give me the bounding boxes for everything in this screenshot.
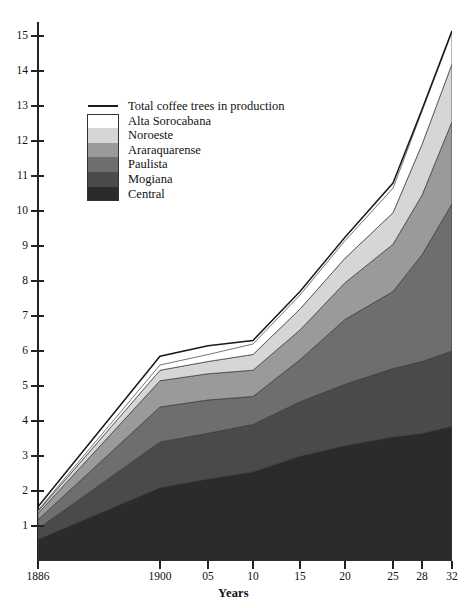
legend-label: Noroeste <box>120 128 173 143</box>
legend-item-central: Central <box>86 187 284 202</box>
y-tick-label-8: 8 <box>4 275 28 287</box>
legend-item-araraquarense: Araraquarense <box>86 143 284 158</box>
y-tick-10 <box>31 210 44 211</box>
y-tick-label-13: 13 <box>4 100 28 112</box>
legend-swatch-key <box>86 187 120 202</box>
y-axis-labels: 123456789101112131415 <box>0 0 28 608</box>
legend-swatch-glyph <box>87 114 119 129</box>
legend-swatch-glyph <box>87 187 119 202</box>
legend-label: Araraquarense <box>120 143 201 158</box>
legend-swatch-key <box>86 172 120 187</box>
x-tick-05 <box>207 561 208 569</box>
x-tick-label-32: 32 <box>446 570 458 582</box>
x-tick-25 <box>392 561 393 569</box>
legend-swatch-glyph <box>87 172 119 187</box>
x-tick-label-1900: 1900 <box>149 570 172 582</box>
legend-swatch-glyph <box>87 128 119 143</box>
legend-item-total-coffee-trees-in-production: Total coffee trees in production <box>86 99 284 114</box>
x-tick-1900 <box>159 561 160 569</box>
y-tick-8 <box>31 280 44 281</box>
legend-swatch-key <box>86 143 120 158</box>
legend-label: Mogiana <box>120 172 172 187</box>
legend-swatch-key <box>86 128 120 143</box>
legend-swatch-glyph <box>87 143 119 158</box>
x-tick-10 <box>252 561 253 569</box>
x-tick-label-28: 28 <box>416 570 428 582</box>
legend-swatch-glyph <box>87 157 119 172</box>
x-tick-20 <box>344 561 345 569</box>
x-axis-title: Years <box>0 586 467 601</box>
legend-item-paulista: Paulista <box>86 157 284 172</box>
x-tick-15 <box>299 561 300 569</box>
legend-label: Alta Sorocabana <box>120 114 211 129</box>
legend-label: Paulista <box>120 157 168 172</box>
y-tick-2 <box>31 490 44 491</box>
y-tick-13 <box>31 105 44 106</box>
legend-swatch-key <box>86 114 120 129</box>
y-tick-label-2: 2 <box>4 485 28 497</box>
y-tick-5 <box>31 385 44 386</box>
y-tick-7 <box>31 315 44 316</box>
x-tick-label-25: 25 <box>387 570 399 582</box>
x-tick-label-15: 15 <box>294 570 306 582</box>
x-tick-label-1886: 1886 <box>27 570 50 582</box>
figure-caption-clipped <box>0 601 467 608</box>
y-tick-label-1: 1 <box>4 520 28 532</box>
chart-legend: Total coffee trees in productionAlta Sor… <box>86 99 284 201</box>
coffee-production-area-chart: 123456789101112131415 Years Total coffee… <box>0 0 467 608</box>
x-tick-label-20: 20 <box>339 570 351 582</box>
y-tick-label-15: 15 <box>4 30 28 42</box>
y-tick-label-7: 7 <box>4 310 28 322</box>
legend-label: Central <box>120 187 165 202</box>
legend-line-key <box>86 99 120 114</box>
y-tick-label-4: 4 <box>4 415 28 427</box>
x-tick-label-10: 10 <box>247 570 259 582</box>
y-tick-label-11: 11 <box>4 170 28 182</box>
y-tick-3 <box>31 455 44 456</box>
legend-item-alta-sorocabana: Alta Sorocabana <box>86 114 284 129</box>
legend-label: Total coffee trees in production <box>120 99 284 114</box>
x-tick-28 <box>421 561 422 569</box>
y-tick-label-14: 14 <box>4 65 28 77</box>
x-tick-label-05: 05 <box>202 570 214 582</box>
y-tick-1 <box>31 525 44 526</box>
legend-line-glyph <box>88 105 118 107</box>
y-tick-6 <box>31 350 44 351</box>
legend-swatch-key <box>86 157 120 172</box>
y-tick-15 <box>31 35 44 36</box>
y-tick-12 <box>31 140 44 141</box>
y-tick-14 <box>31 70 44 71</box>
y-tick-label-3: 3 <box>4 450 28 462</box>
y-tick-label-6: 6 <box>4 345 28 357</box>
y-tick-label-5: 5 <box>4 380 28 392</box>
y-tick-label-10: 10 <box>4 205 28 217</box>
y-tick-11 <box>31 175 44 176</box>
legend-item-noroeste: Noroeste <box>86 128 284 143</box>
y-tick-label-12: 12 <box>4 135 28 147</box>
legend-item-mogiana: Mogiana <box>86 172 284 187</box>
x-tick-32 <box>451 561 452 569</box>
x-tick-1886 <box>37 561 38 569</box>
y-tick-label-9: 9 <box>4 240 28 252</box>
y-tick-9 <box>31 245 44 246</box>
y-tick-4 <box>31 420 44 421</box>
